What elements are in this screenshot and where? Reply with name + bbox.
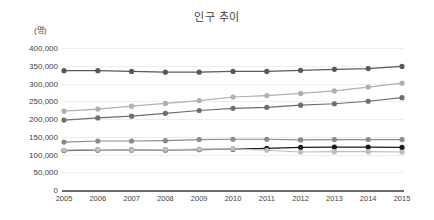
data-point [129,147,134,152]
data-point [197,137,202,142]
data-point [298,91,303,96]
data-point [163,70,168,75]
data-point [230,94,235,99]
data-point [230,106,235,111]
data-point [332,88,337,93]
data-point [332,67,337,72]
y-axis-tick-label: 150,000 [6,132,58,141]
data-point [264,105,269,110]
data-point [95,147,100,152]
data-point [264,93,269,98]
data-point [163,111,168,116]
data-point [298,149,303,154]
data-point [129,69,134,74]
data-point [129,138,134,143]
plot-area [62,48,404,190]
population-trend-chart: 인구 추이 (명) 400,000350,000300,000250,00020… [0,0,434,220]
data-point [61,109,66,114]
y-axis-tick-label: 300,000 [6,79,58,88]
data-point [197,108,202,113]
data-point [61,117,66,122]
data-point [332,144,337,149]
data-point [264,69,269,74]
y-axis-tick-label: 350,000 [6,61,58,70]
series-series-4 [61,137,404,145]
series-layer [62,48,404,190]
y-axis-tick-label: 200,000 [6,115,58,124]
y-axis-tick-label: 100,000 [6,150,58,159]
data-point [264,148,269,153]
data-point [61,139,66,144]
data-point [95,138,100,143]
y-axis-unit-label: (명) [34,24,46,35]
data-point [163,101,168,106]
data-point [399,137,404,142]
data-point [298,137,303,142]
data-point [61,148,66,153]
data-point [230,146,235,151]
data-point [230,137,235,142]
data-point [197,147,202,152]
x-axis-tick-label: 2015 [382,194,422,203]
data-point [129,114,134,119]
y-axis-tick-label: 50,000 [6,168,58,177]
data-point [61,68,66,73]
data-point [95,106,100,111]
data-point [366,137,371,142]
data-point [163,147,168,152]
x-axis-line [62,190,404,192]
data-point [366,66,371,71]
y-axis-tick-labels: 400,000350,000300,000250,000200,000150,0… [0,48,58,190]
data-point [366,99,371,104]
y-axis-tick-label: 250,000 [6,97,58,106]
data-point [163,138,168,143]
data-point [95,68,100,73]
data-point [366,149,371,154]
data-point [366,144,371,149]
y-axis-tick-label: 400,000 [6,44,58,53]
data-point [264,137,269,142]
data-point [298,145,303,150]
data-point [95,115,100,120]
data-point [399,145,404,150]
series-series-1 [61,64,404,75]
data-point [197,70,202,75]
data-point [298,103,303,108]
data-point [129,104,134,109]
data-point [332,149,337,154]
data-point [332,101,337,106]
data-point [230,69,235,74]
data-point [399,81,404,86]
data-point [332,137,337,142]
data-point [298,68,303,73]
chart-title: 인구 추이 [0,8,434,24]
data-point [399,149,404,154]
data-point [366,84,371,89]
data-point [399,64,404,69]
data-point [399,95,404,100]
data-point [197,98,202,103]
